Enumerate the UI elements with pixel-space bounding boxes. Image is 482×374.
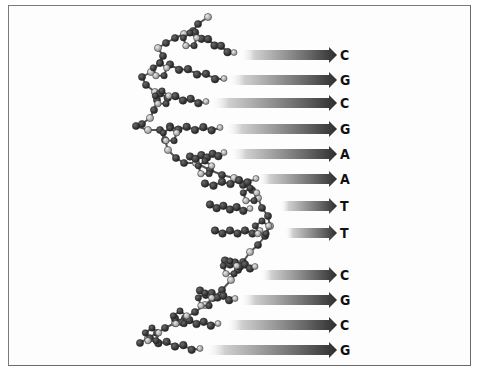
arrow-shape bbox=[205, 342, 337, 358]
atom bbox=[210, 182, 218, 190]
atom bbox=[181, 320, 187, 326]
atom bbox=[202, 158, 208, 164]
atom bbox=[152, 93, 158, 99]
atom bbox=[259, 218, 265, 224]
atom bbox=[173, 320, 179, 326]
atom bbox=[226, 227, 234, 235]
atom bbox=[252, 223, 258, 229]
arrow-shape bbox=[225, 317, 337, 333]
base-label: A bbox=[340, 171, 350, 187]
base-arrow: A bbox=[258, 171, 350, 187]
atom bbox=[241, 227, 249, 235]
atom bbox=[132, 122, 139, 129]
atom bbox=[191, 42, 197, 48]
atom bbox=[232, 296, 238, 302]
atom bbox=[161, 72, 167, 78]
base-label: G bbox=[340, 121, 350, 137]
atom bbox=[195, 295, 201, 301]
atom bbox=[253, 190, 259, 196]
atom bbox=[252, 264, 258, 270]
atom bbox=[203, 99, 209, 105]
atom bbox=[171, 34, 178, 41]
atom bbox=[165, 93, 171, 99]
arrow-shape bbox=[285, 225, 337, 241]
atom bbox=[150, 106, 157, 113]
atom bbox=[154, 44, 161, 51]
atom bbox=[170, 313, 176, 319]
atom bbox=[195, 99, 203, 107]
atom bbox=[218, 171, 225, 178]
atom bbox=[204, 35, 212, 43]
atom bbox=[211, 75, 219, 83]
atom bbox=[163, 65, 169, 71]
atom bbox=[183, 123, 191, 131]
atom bbox=[150, 65, 156, 71]
atom bbox=[149, 325, 155, 331]
atom bbox=[255, 230, 261, 236]
atom bbox=[243, 197, 249, 203]
arrow-shape bbox=[280, 198, 337, 214]
atom bbox=[258, 204, 265, 211]
atom bbox=[201, 180, 209, 188]
atom bbox=[227, 276, 234, 283]
atom bbox=[265, 223, 271, 229]
base-arrow: T bbox=[285, 225, 349, 241]
atom bbox=[194, 20, 201, 27]
base-arrow: C bbox=[225, 317, 349, 333]
atom bbox=[175, 66, 183, 74]
base-label: G bbox=[340, 72, 350, 88]
atom bbox=[220, 202, 228, 210]
atom bbox=[264, 212, 271, 219]
atom bbox=[179, 97, 187, 105]
base-label: T bbox=[340, 225, 349, 241]
atom bbox=[144, 126, 151, 133]
atom bbox=[183, 313, 189, 319]
atom bbox=[193, 71, 201, 79]
atom bbox=[207, 322, 215, 330]
atom bbox=[200, 318, 208, 326]
arrow-shape bbox=[240, 292, 337, 308]
atom bbox=[171, 343, 179, 351]
arrow-shape bbox=[230, 146, 337, 162]
atom bbox=[208, 163, 214, 169]
atom bbox=[187, 30, 193, 36]
atom bbox=[211, 227, 219, 235]
atom bbox=[198, 170, 204, 176]
atom bbox=[162, 39, 169, 46]
atom bbox=[231, 270, 237, 276]
atom bbox=[223, 270, 229, 276]
base-label: A bbox=[340, 146, 350, 162]
atom bbox=[188, 346, 196, 354]
arrow-shape bbox=[225, 121, 337, 137]
arrow-shape bbox=[240, 47, 337, 63]
atom bbox=[163, 100, 169, 106]
atom bbox=[221, 150, 227, 156]
atom bbox=[172, 92, 180, 100]
atom bbox=[220, 263, 226, 269]
arrow-shape bbox=[260, 267, 337, 283]
arrow-shape bbox=[258, 171, 337, 187]
atom bbox=[227, 258, 233, 264]
atom bbox=[187, 95, 195, 103]
base-label: T bbox=[340, 198, 349, 214]
atom bbox=[160, 130, 166, 136]
atom bbox=[208, 295, 214, 301]
atom bbox=[200, 123, 208, 131]
base-arrow: C bbox=[240, 47, 349, 63]
atom bbox=[142, 330, 148, 336]
base-arrow: G bbox=[228, 72, 350, 88]
atom bbox=[180, 35, 186, 41]
atom bbox=[146, 114, 153, 121]
atom bbox=[208, 127, 216, 135]
atom bbox=[231, 50, 237, 56]
atom bbox=[218, 178, 226, 186]
atom bbox=[155, 330, 161, 336]
base-arrow: G bbox=[205, 342, 350, 358]
atom bbox=[217, 42, 225, 50]
atom bbox=[163, 137, 169, 143]
atom bbox=[233, 203, 241, 211]
atom bbox=[206, 302, 212, 308]
base-label: G bbox=[340, 292, 350, 308]
atom bbox=[173, 130, 179, 136]
base-arrow: G bbox=[225, 121, 350, 137]
